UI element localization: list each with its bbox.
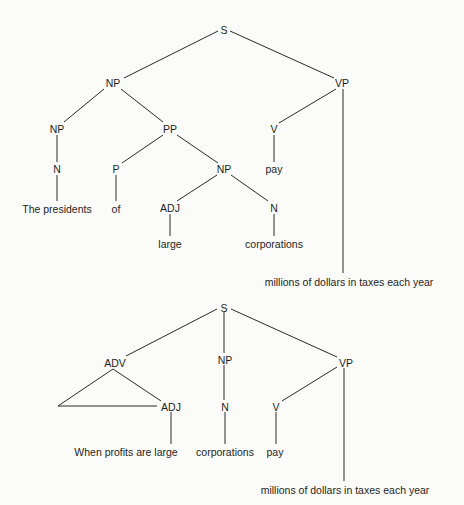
terminal-word: large <box>158 238 182 250</box>
tree-branch-line <box>231 175 268 201</box>
category-node-np: NP <box>218 354 233 366</box>
tree-branch-line <box>126 309 217 356</box>
tree-branch-line <box>64 89 104 122</box>
category-node-adj: ADJ <box>161 401 181 413</box>
category-node-n: N <box>53 163 61 175</box>
category-node-adv: ADV <box>104 357 126 369</box>
terminal-word: of <box>112 203 121 215</box>
category-node-vp: VP <box>339 357 353 369</box>
tree-1-edges <box>57 31 343 273</box>
terminal-word: millions of dollars in taxes each year <box>261 484 430 496</box>
tree-branch-line <box>122 135 163 163</box>
tree-branch-line <box>121 89 163 122</box>
tree-2-nodes: SADVNPVPADJNVWhen profits are largecorpo… <box>74 302 429 496</box>
terminal-word: pay <box>266 163 284 175</box>
category-node-adj: ADJ <box>160 202 180 214</box>
tree-branch-line <box>177 175 217 201</box>
terminal-word: pay <box>267 446 285 458</box>
tree-branch-line <box>177 135 218 163</box>
category-node-p: P <box>112 163 119 175</box>
terminal-word: corporations <box>245 238 303 250</box>
category-node-pp: PP <box>163 123 177 135</box>
terminal-word: corporations <box>196 446 254 458</box>
tree-1-nodes: SNPVPNPPPVNPNPpayThe presidentsofADJNlar… <box>22 24 434 288</box>
category-node-np: NP <box>217 163 232 175</box>
terminal-word: When profits are large <box>74 446 177 458</box>
terminal-word: The presidents <box>22 203 91 215</box>
syntax-tree-diagram: SNPVPNPPPVNPNPpayThe presidentsofADJNlar… <box>0 0 464 505</box>
category-node-n: N <box>270 202 278 214</box>
category-node-v: V <box>270 123 277 135</box>
tree-branch-line <box>113 369 161 401</box>
category-node-v: V <box>272 401 279 413</box>
category-node-vp: VP <box>335 77 349 89</box>
category-node-s: S <box>220 24 227 36</box>
syntax-tree-1: SNPVPNPPPVNPNPpayThe presidentsofADJNlar… <box>22 24 434 288</box>
tree-branch-line <box>230 31 334 78</box>
category-node-n: N <box>221 401 229 413</box>
category-node-s: S <box>220 302 227 314</box>
syntax-tree-2: SADVNPVPADJNVWhen profits are largecorpo… <box>58 302 430 496</box>
tree-branch-line <box>279 89 336 123</box>
category-node-np: NP <box>50 123 65 135</box>
category-node-np: NP <box>106 77 121 89</box>
tree-branch-line <box>124 31 218 78</box>
tree-branch-line <box>231 309 337 357</box>
tree-branch-line <box>58 369 113 406</box>
tree-branch-line <box>282 367 337 401</box>
terminal-word: millions of dollars in taxes each year <box>265 276 434 288</box>
